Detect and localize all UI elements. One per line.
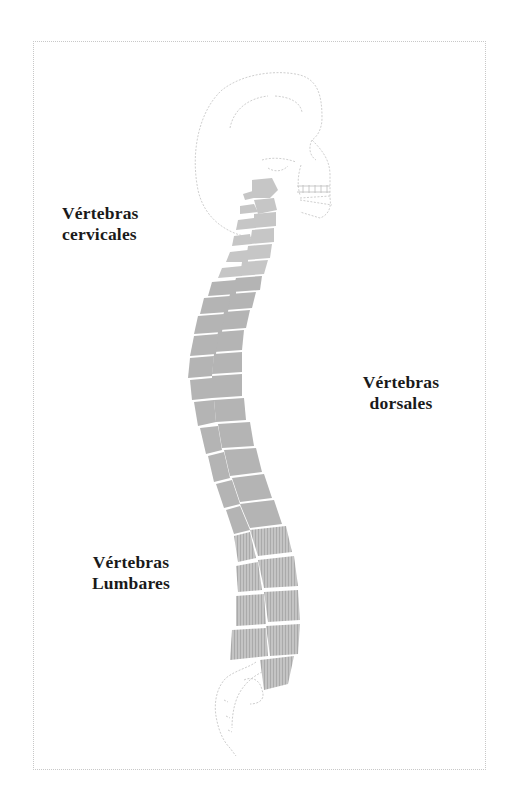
label-cervical-line1: Vértebras xyxy=(62,203,172,224)
label-lumbar-vertebrae: Vértebras Lumbares xyxy=(72,552,190,594)
label-dorsal-vertebrae: Vértebras dorsales xyxy=(342,372,460,414)
label-dorsal-line1: Vértebras xyxy=(342,372,460,393)
lumbar-vertebrae xyxy=(230,526,300,690)
dorsal-vertebrae xyxy=(188,276,282,534)
skull-teeth xyxy=(297,185,330,193)
label-lumbar-line1: Vértebras xyxy=(72,552,190,573)
label-cervical-vertebrae: Vértebras cervicales xyxy=(62,203,172,245)
label-dorsal-line2: dorsales xyxy=(342,393,460,414)
label-lumbar-line2: Lumbares xyxy=(72,573,190,594)
cervical-vertebrae xyxy=(218,178,278,278)
label-cervical-line2: cervicales xyxy=(62,224,172,245)
sacrum-coccyx-outline xyxy=(215,662,263,756)
